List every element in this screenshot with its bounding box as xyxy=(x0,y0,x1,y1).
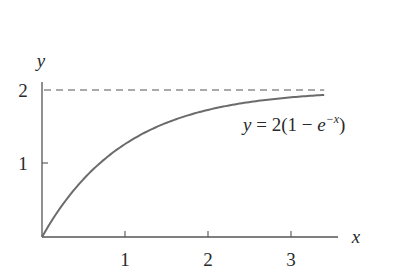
y-axis-label: y xyxy=(35,50,46,71)
x-tick-label-1: 1 xyxy=(120,249,130,270)
y-tick-label-2: 2 xyxy=(18,80,28,101)
equation-exponent: −x xyxy=(326,112,340,126)
x-ticks xyxy=(125,231,291,237)
x-tick-label-3: 3 xyxy=(286,249,296,270)
y-tick-label-1: 1 xyxy=(18,153,28,174)
x-axis-label: x xyxy=(351,226,361,247)
equation-main: = 2(1 − xyxy=(251,114,317,136)
equation-y: y xyxy=(241,114,252,135)
equation-close: ) xyxy=(339,114,345,136)
x-tick-label-2: 2 xyxy=(203,249,213,270)
exponential-approach-chart: 1 2 3 1 2 y x y = 2(1 − e−x) xyxy=(0,0,395,280)
equation-label: y = 2(1 − e−x) xyxy=(241,112,345,136)
equation-e: e xyxy=(317,114,325,135)
